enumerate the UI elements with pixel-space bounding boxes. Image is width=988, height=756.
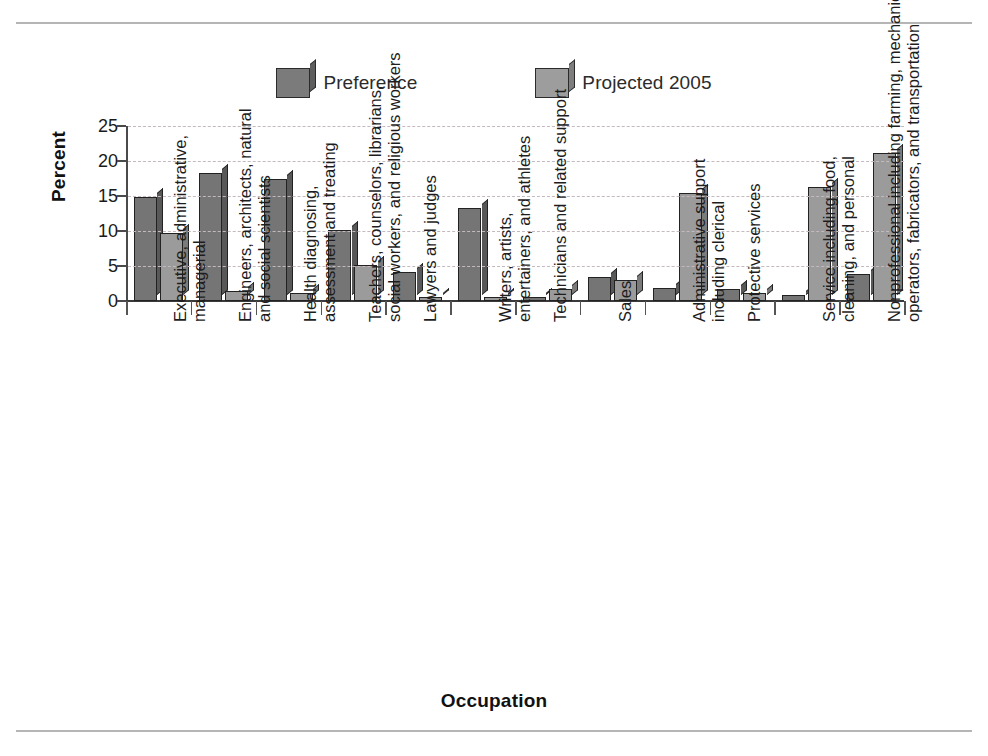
category-label-0: Executive, administrative,managerial [171, 135, 209, 322]
category-tick-5 [450, 301, 452, 315]
x-axis-title: Occupation [0, 690, 988, 712]
bar-preference-0 [134, 197, 157, 301]
category-label-line: managerial [190, 135, 209, 322]
category-label-line: assessment and treating [320, 142, 339, 322]
category-tick-0 [126, 301, 128, 315]
category-label-11: Nonprofessional including farming, mecha… [885, 0, 923, 322]
category-label-5: Writers, artists,entertainers, and athle… [496, 136, 534, 322]
y-axis-tick-labels: 0510152025 [74, 126, 118, 301]
category-label-line: Technicians and related support [551, 89, 570, 322]
category-label-line: Executive, administrative, [171, 135, 190, 322]
category-tick-8 [645, 301, 647, 315]
category-label-4: Lawyers and judges [421, 175, 440, 322]
category-label-3: Teachers, counselors, librarians,social … [366, 52, 404, 322]
category-label-line: Engineers, architects, natural [236, 108, 255, 322]
page-rule-top [16, 22, 972, 24]
y-axis-tick-10 [117, 230, 126, 232]
bar-chart-figure: Preference Projected 2005 Percent 051015… [0, 30, 988, 728]
bar-preference-8 [653, 288, 676, 301]
category-tick-10 [774, 301, 776, 315]
category-label-line: Writers, artists, [496, 136, 515, 322]
bar-preference-5 [458, 208, 481, 301]
y-tick-label-10: 10 [98, 221, 118, 242]
y-axis-tick-15 [117, 195, 126, 197]
y-tick-label-25: 25 [98, 116, 118, 137]
category-labels: Executive, administrative,managerialEngi… [126, 316, 904, 676]
category-label-1: Engineers, architects, naturaland social… [236, 108, 274, 322]
category-label-line: operators, fabricators, and transportati… [904, 0, 923, 322]
category-label-line: including clerical [709, 159, 728, 322]
category-label-line: Nonprofessional including farming, mecha… [885, 0, 904, 322]
category-label-8: Administrative supportincluding clerical [690, 159, 728, 322]
category-label-line: entertainers, and athletes [515, 136, 534, 322]
y-axis-tick-5 [117, 265, 126, 267]
category-label-line: Lawyers and judges [421, 175, 440, 322]
chart-legend: Preference Projected 2005 [0, 68, 988, 98]
category-label-line: Sales [616, 281, 635, 322]
y-axis-tick-0 [117, 300, 126, 302]
y-axis-tick-25 [117, 125, 126, 127]
category-label-10: Service including food,cleaning, and per… [820, 156, 858, 322]
bar-preference-7 [588, 277, 611, 301]
category-label-line: Protective services [745, 184, 764, 322]
y-tick-label-15: 15 [98, 186, 118, 207]
category-label-line: Teachers, counselors, librarians, [366, 52, 385, 322]
category-label-line: Administrative support [690, 159, 709, 322]
category-label-6: Technicians and related support [551, 89, 570, 322]
y-axis-tick-20 [117, 160, 126, 162]
category-label-line: and social scientists [255, 108, 274, 322]
category-label-line: cleaning, and personal [839, 156, 858, 322]
y-tick-label-20: 20 [98, 151, 118, 172]
category-label-9: Protective services [745, 184, 764, 322]
page-rule-bottom [16, 730, 972, 732]
category-tick-7 [580, 301, 582, 315]
category-label-line: Health diagnosing, [301, 142, 320, 322]
category-label-line: social workers, and religious workers [385, 52, 404, 322]
category-label-7: Sales [616, 281, 635, 322]
category-label-2: Health diagnosing,assessment and treatin… [301, 142, 339, 322]
legend-swatch-preference [276, 68, 310, 98]
y-axis-title: Percent [48, 131, 70, 202]
legend-label-projected: Projected 2005 [582, 72, 711, 94]
category-label-line: Service including food, [820, 156, 839, 322]
